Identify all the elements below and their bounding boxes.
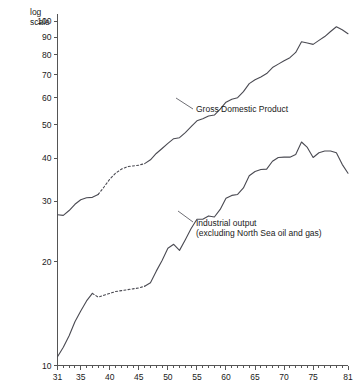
x-tick-label: 65 — [250, 372, 260, 382]
line-chart: 102030405060708090100 313540455055606570… — [0, 0, 358, 385]
industrial-output-line-late — [145, 142, 348, 286]
gdp-label-leader — [176, 98, 193, 109]
y-axis-ticks — [54, 21, 58, 365]
x-tick-label: 35 — [76, 372, 86, 382]
x-axis-tick-labels: 3135404550556065707581 — [53, 372, 353, 382]
gdp-series-label: Gross Domestic Product — [196, 104, 289, 114]
series-lines — [58, 27, 349, 357]
gdp-line-late — [145, 27, 348, 164]
x-axis: 3135404550556065707581 — [53, 366, 353, 382]
gdp-line-interpolated — [98, 164, 144, 195]
gdp-line-early — [58, 194, 99, 215]
y-tick-label: 60 — [42, 93, 52, 103]
x-tick-label: 60 — [221, 372, 231, 382]
x-tick-label: 70 — [279, 372, 289, 382]
y-tick-label: 10 — [42, 361, 52, 371]
y-tick-label: 80 — [42, 50, 52, 60]
industrial-output-line-early — [58, 293, 93, 356]
log-scale-note-line1: log — [30, 7, 42, 17]
industrial-output-series-label-line2: (excluding North Sea oil and gas) — [196, 228, 322, 238]
annotations: log scale Gross Domestic Product Industr… — [30, 7, 322, 238]
y-tick-label: 40 — [42, 153, 52, 163]
y-axis-tick-labels: 102030405060708090100 — [37, 16, 51, 370]
y-tick-label: 50 — [42, 120, 52, 130]
x-tick-label: 45 — [134, 372, 144, 382]
chart-container: 102030405060708090100 313540455055606570… — [0, 0, 358, 385]
x-tick-label: 75 — [308, 372, 318, 382]
x-axis-ticks — [58, 366, 349, 370]
x-tick-label: 31 — [53, 372, 63, 382]
industrial-output-series-label-line1: Industrial output — [196, 218, 257, 228]
y-tick-label: 20 — [42, 257, 52, 267]
log-scale-note-line2: scale — [30, 17, 50, 27]
industrial-output-line-interpolated — [92, 286, 144, 297]
industrial-output-label-leader — [178, 211, 193, 222]
y-tick-label: 90 — [42, 32, 52, 42]
x-tick-label: 55 — [192, 372, 202, 382]
y-tick-label: 30 — [42, 196, 52, 206]
y-axis: 102030405060708090100 — [37, 14, 57, 371]
x-tick-label: 81 — [343, 372, 353, 382]
y-tick-label: 70 — [42, 70, 52, 80]
x-tick-label: 40 — [105, 372, 115, 382]
x-tick-label: 50 — [163, 372, 173, 382]
